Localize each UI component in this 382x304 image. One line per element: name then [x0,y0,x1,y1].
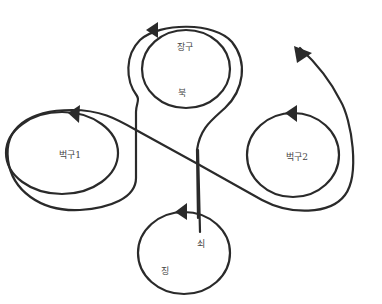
arrow-icon-exit [294,46,312,63]
crossing-path [136,48,353,211]
arrow-icon-bottom [175,203,187,220]
label-beokgu1: 벅구1 [59,148,81,161]
label-soe: 쇠 [197,237,205,250]
arrow-icon-right [285,105,297,122]
bottom-loop [138,212,230,294]
label-janggu: 장구 [177,40,193,53]
soe-line [198,150,200,232]
arrow-icon-left [68,105,80,123]
label-beokgu2: 벅구2 [286,150,308,163]
label-buk: 북 [178,86,186,99]
label-jing: 징 [161,264,169,277]
